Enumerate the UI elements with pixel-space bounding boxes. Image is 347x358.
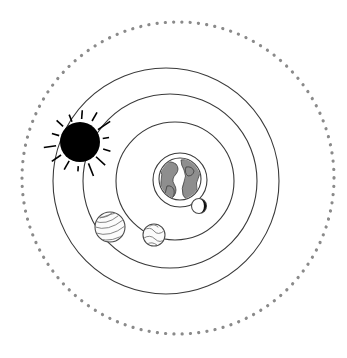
sun-ray [44, 146, 56, 148]
sun-ray [103, 138, 109, 139]
earth-group [159, 158, 201, 200]
sun-ray [92, 112, 97, 121]
sun-ray [57, 120, 63, 126]
diagram-canvas [0, 0, 347, 358]
planet-striped-group [94, 212, 126, 243]
sun-ray [82, 110, 83, 119]
sun-ray [98, 121, 110, 129]
sun-ray [52, 133, 59, 135]
sun-ray [103, 149, 110, 151]
sun-ray [88, 163, 93, 176]
moon-group [192, 199, 207, 214]
sun-ray [64, 161, 69, 170]
sun-core [60, 122, 100, 162]
planet-mottled-group [143, 224, 165, 246]
geocentric-diagram-svg [0, 0, 347, 358]
planet-mottled-body [143, 224, 165, 246]
sun-ray [96, 157, 105, 165]
sun-ray [52, 155, 61, 161]
